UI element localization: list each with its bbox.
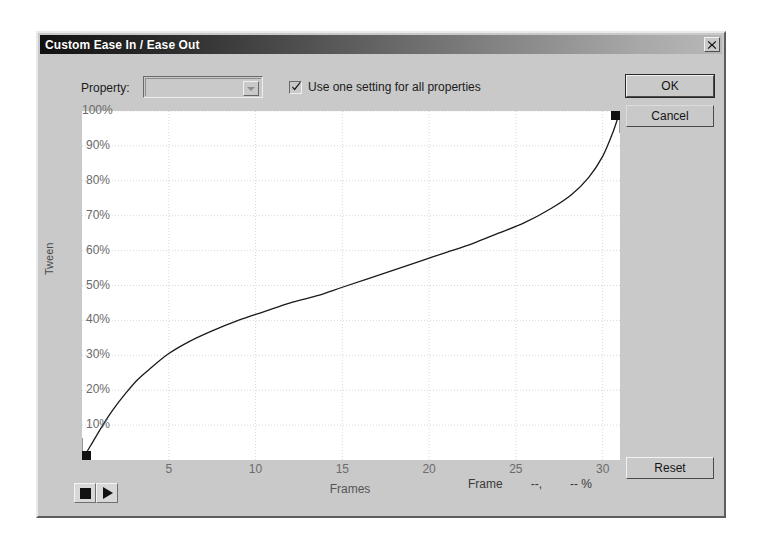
curve-canvas[interactable] bbox=[82, 111, 620, 460]
frame-readout-label: Frame bbox=[468, 477, 503, 491]
x-tick-label: 20 bbox=[422, 462, 435, 476]
grid-lines bbox=[82, 111, 620, 460]
play-icon bbox=[103, 487, 113, 499]
curve-tangent-handles bbox=[82, 111, 620, 460]
y-tick-label: 80% bbox=[86, 173, 110, 187]
cancel-button[interactable]: Cancel bbox=[626, 105, 714, 127]
y-tick-label: 10% bbox=[86, 417, 110, 431]
ease-curve-line bbox=[82, 111, 620, 460]
frame-readout-percent-value: -- % bbox=[570, 477, 592, 491]
x-tick-label: 30 bbox=[596, 462, 609, 476]
screenshot-root: Custom Ease In / Ease Out Property: bbox=[0, 0, 760, 547]
ease-curve-graph[interactable]: Tween 10%20%30%40%50%60%70%80%90%100% 51… bbox=[44, 105, 619, 485]
x-axis-title: Frames bbox=[330, 482, 371, 496]
use-one-setting-checkbox[interactable] bbox=[289, 81, 302, 94]
stop-icon bbox=[80, 488, 91, 499]
property-label: Property: bbox=[81, 81, 130, 95]
control-point-end[interactable] bbox=[611, 111, 620, 120]
use-one-setting-row[interactable]: Use one setting for all properties bbox=[289, 80, 481, 94]
property-dropdown[interactable] bbox=[143, 76, 263, 98]
dialog-titlebar[interactable]: Custom Ease In / Ease Out bbox=[40, 35, 722, 54]
y-tick-label: 50% bbox=[86, 278, 110, 292]
stop-button[interactable] bbox=[74, 483, 96, 503]
play-button[interactable] bbox=[96, 483, 118, 503]
ok-button[interactable]: OK bbox=[626, 75, 714, 97]
use-one-setting-label: Use one setting for all properties bbox=[308, 80, 481, 94]
y-tick-label: 60% bbox=[86, 243, 110, 257]
close-icon[interactable] bbox=[704, 37, 720, 52]
plot-area[interactable] bbox=[82, 111, 620, 460]
y-tick-label: 90% bbox=[86, 138, 110, 152]
curve-control-points[interactable] bbox=[82, 111, 620, 460]
y-tick-label: 40% bbox=[86, 312, 110, 326]
y-tick-label: 30% bbox=[86, 347, 110, 361]
custom-ease-dialog: Custom Ease In / Ease Out Property: bbox=[36, 31, 726, 518]
chevron-down-glyph bbox=[247, 87, 255, 91]
x-tick-label: 25 bbox=[509, 462, 522, 476]
transport-controls[interactable] bbox=[74, 483, 118, 503]
y-tick-label: 20% bbox=[86, 382, 110, 396]
x-tick-label: 10 bbox=[249, 462, 262, 476]
dialog-title: Custom Ease In / Ease Out bbox=[40, 38, 200, 52]
frame-readout: Frame --, -- % bbox=[468, 477, 592, 491]
y-tick-label: 70% bbox=[86, 208, 110, 222]
reset-button[interactable]: Reset bbox=[626, 457, 714, 479]
checkmark-icon bbox=[291, 82, 302, 93]
x-tick-label: 5 bbox=[165, 462, 172, 476]
property-dropdown-inner bbox=[145, 78, 261, 96]
y-axis-title: Tween bbox=[43, 243, 55, 275]
control-point-start[interactable] bbox=[82, 451, 91, 460]
frame-readout-frame-value: --, bbox=[531, 477, 542, 491]
chevron-down-icon[interactable] bbox=[243, 81, 259, 96]
y-tick-label: 100% bbox=[82, 103, 113, 117]
x-tick-label: 15 bbox=[336, 462, 349, 476]
